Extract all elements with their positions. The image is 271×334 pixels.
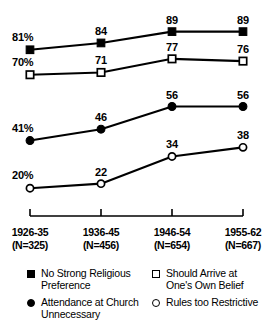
data-point-marker — [168, 28, 176, 36]
data-point-label: 84 — [95, 26, 108, 37]
filled-circle-icon — [27, 299, 35, 307]
data-point-label: 46 — [95, 112, 108, 123]
data-point-label: 20% — [12, 170, 33, 181]
data-point-marker — [97, 39, 105, 47]
legend-column-left: No Strong ReligiousPreferenceAttendance … — [27, 268, 151, 326]
legend-label-line2: Unnecessary — [41, 309, 151, 321]
legend-label-line1: Rules too Restrictive — [166, 297, 270, 309]
x-tick-label-3: 1955-62(N=667) — [210, 226, 271, 251]
data-point-label: 76 — [237, 44, 250, 55]
open-circle-icon — [152, 299, 160, 307]
data-point-marker — [239, 103, 247, 111]
data-point-label: 89 — [237, 15, 250, 26]
legend-label-line2: Preference — [41, 280, 151, 292]
x-tick-sample-size: (N=325) — [0, 239, 63, 252]
data-point-label: 89 — [166, 15, 179, 26]
series-lines — [30, 32, 243, 189]
x-tick-label-2: 1946-54(N=654) — [139, 226, 205, 251]
x-tick-period: 1926-35 — [0, 226, 63, 239]
x-axis-tick-labels: 1926-35(N=325)1936-45(N=456)1946-54(N=65… — [0, 226, 271, 258]
data-point-marker — [26, 137, 34, 145]
data-point-marker — [97, 125, 105, 133]
series-line-1 — [30, 59, 243, 75]
data-point-label: 81% — [12, 32, 33, 43]
series-line-2 — [30, 107, 243, 141]
data-point-label: 56 — [166, 90, 179, 101]
legend-label-line1: No Strong Religious — [41, 268, 151, 280]
data-point-label: 77 — [166, 42, 179, 53]
data-point-label: 22 — [95, 167, 108, 178]
x-tick-sample-size: (N=667) — [210, 239, 271, 252]
plot-area — [0, 0, 271, 225]
plot-svg — [0, 0, 271, 225]
x-tick-period: 1946-54 — [139, 226, 205, 239]
data-point-marker — [26, 71, 33, 78]
chart-legend: No Strong ReligiousPreferenceAttendance … — [0, 268, 271, 322]
x-tick-period: 1936-45 — [68, 226, 134, 239]
x-axis-line — [30, 209, 243, 216]
data-point-marker — [239, 28, 247, 36]
data-point-marker — [26, 185, 33, 192]
data-point-marker — [168, 103, 176, 111]
series-markers — [26, 28, 247, 192]
x-tick-label-1: 1936-45(N=456) — [68, 226, 134, 251]
data-point-marker — [168, 55, 175, 62]
x-tick-period: 1955-62 — [210, 226, 271, 239]
data-point-label: 41% — [12, 123, 33, 134]
legend-item: Rules too Restrictive — [152, 297, 270, 309]
open-square-icon — [152, 270, 160, 278]
data-point-marker — [97, 69, 104, 76]
data-point-label: 70% — [12, 57, 33, 68]
data-point-marker — [239, 144, 246, 151]
x-tick-sample-size: (N=654) — [139, 239, 205, 252]
data-point-marker — [168, 153, 175, 160]
legend-item: Attendance at ChurchUnnecessary — [27, 297, 151, 320]
data-point-label: 38 — [237, 130, 250, 141]
data-point-marker — [97, 180, 104, 187]
data-point-label: 34 — [166, 139, 179, 150]
legend-item: Should Arrive atOne's Own Belief — [152, 268, 270, 291]
legend-label-line1: Attendance at Church — [41, 297, 151, 309]
x-tick-label-0: 1926-35(N=325) — [0, 226, 63, 251]
legend-column-right: Should Arrive atOne's Own BeliefRules to… — [152, 268, 270, 315]
filled-square-icon — [27, 270, 35, 278]
legend-label-line1: Should Arrive at — [166, 268, 270, 280]
line-chart: 81%84898970%71777641%46565620%223438 192… — [0, 0, 271, 334]
data-point-label: 56 — [237, 90, 250, 101]
data-point-label: 71 — [95, 55, 108, 66]
legend-label-line2: One's Own Belief — [166, 280, 270, 292]
series-line-3 — [30, 147, 243, 188]
legend-item: No Strong ReligiousPreference — [27, 268, 151, 291]
series-line-0 — [30, 32, 243, 50]
data-point-marker — [239, 57, 246, 64]
x-tick-sample-size: (N=456) — [68, 239, 134, 252]
data-point-marker — [26, 46, 34, 54]
